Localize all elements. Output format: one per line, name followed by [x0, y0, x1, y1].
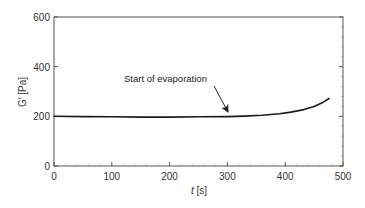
- y-tick-label: 0: [44, 161, 50, 172]
- x-tick-label: 300: [219, 171, 236, 182]
- major-ticks: [54, 17, 343, 166]
- x-tick-labels: 0 100 200 300 400 500: [51, 171, 352, 182]
- y-tick-label: 400: [33, 62, 50, 73]
- x-tick-label: 100: [103, 171, 120, 182]
- x-axis-label: t [s]: [191, 185, 207, 196]
- x-tick-label: 200: [161, 171, 178, 182]
- x-axis-unit: [s]: [194, 185, 208, 196]
- annotation-arrow: [214, 86, 228, 112]
- y-tick-label: 200: [33, 111, 50, 122]
- x-tick-label: 400: [277, 171, 294, 182]
- x-tick-label: 0: [51, 171, 57, 182]
- minor-ticks: [66, 27, 343, 166]
- y-tick-label: 600: [33, 12, 50, 23]
- y-axis-label: G′ [Pa]: [17, 77, 28, 107]
- chart-canvas: 0 100 200 300 400 500 0 200 400 600 t [s…: [0, 0, 365, 208]
- y-tick-labels: 0 200 400 600: [33, 12, 50, 172]
- x-tick-label: 500: [335, 171, 352, 182]
- data-line-g-prime: [54, 99, 329, 118]
- annotation-text: Start of evaporation: [124, 73, 207, 84]
- plot-frame: [54, 17, 343, 166]
